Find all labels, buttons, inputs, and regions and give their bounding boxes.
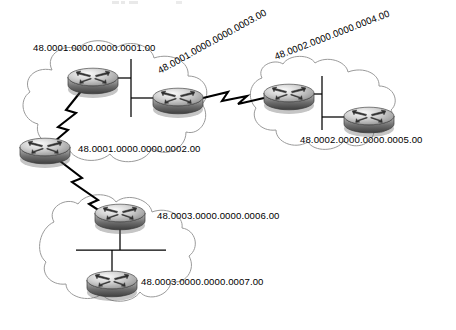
router-0005-label: 48.0002.0000.0000.0005.00: [300, 134, 423, 145]
router-0001-label: 48.0001.0000.0000.0001.00: [33, 42, 156, 53]
router-0007[interactable]: [87, 271, 137, 301]
clipped-top-text: [112, 1, 182, 4]
router-0001[interactable]: [68, 68, 118, 98]
router-0002-label: 48.0001.0000.0000.0002.00: [78, 143, 201, 154]
router-0004[interactable]: [264, 84, 314, 114]
router-0002[interactable]: [20, 138, 70, 168]
network-topology-diagram: 48.0001.0000.0000.0001.00 48.0001.0000.0…: [0, 0, 456, 330]
router-0007-label: 48.0003.0000.0000.0007.00: [141, 276, 264, 287]
router-0005[interactable]: [344, 107, 394, 137]
router-0003[interactable]: [153, 88, 203, 118]
router-0006[interactable]: [95, 204, 145, 234]
router-0004-label: 48.0002.0000.0000.0004.00: [273, 8, 391, 62]
router-0003-label: 48.0001.0000.0000.0003.00: [156, 7, 269, 76]
router-0006-label: 48.0003.0000.0000.0006.00: [157, 210, 280, 221]
